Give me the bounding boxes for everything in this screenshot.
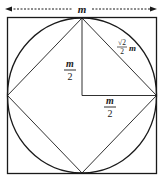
svg-text:2: 2 <box>68 71 73 82</box>
arrow-right-icon <box>150 7 157 12</box>
square-circle-diamond-diagram: m m 2 m 2 √2 2 m <box>0 0 160 181</box>
svg-text:m: m <box>66 58 74 69</box>
horizontal-leg-label: m 2 <box>104 95 116 119</box>
svg-text:m: m <box>129 43 136 53</box>
svg-text:2: 2 <box>108 108 113 119</box>
width-label: m <box>78 3 87 15</box>
vertical-leg-label: m 2 <box>64 58 76 82</box>
svg-text:2: 2 <box>120 47 124 56</box>
arrow-left-icon <box>5 7 12 12</box>
hypotenuse-label: √2 2 m <box>117 38 136 56</box>
svg-text:√2: √2 <box>118 38 126 47</box>
svg-text:m: m <box>106 95 114 106</box>
